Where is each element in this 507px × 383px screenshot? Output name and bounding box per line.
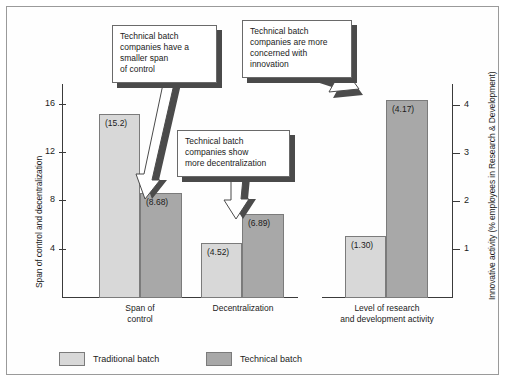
legend-label-traditional: Traditional batch bbox=[93, 354, 159, 364]
callout-span-of-control: Technical batch companies have a smaller… bbox=[112, 25, 217, 83]
legend-swatch-technical bbox=[206, 352, 232, 366]
chart-figure: 16 12 8 4 Span of control and decentrali… bbox=[0, 0, 507, 383]
callout-text-innovation: Technical batch companies are more conce… bbox=[242, 20, 352, 70]
callout-text-span: Technical batch companies have a smaller… bbox=[112, 25, 217, 75]
callout-innovation: Technical batch companies are more conce… bbox=[242, 20, 352, 78]
callout-decentralization: Technical batch companies show more dece… bbox=[177, 130, 290, 177]
legend-label-technical: Technical batch bbox=[240, 354, 302, 364]
callout-text-decentralization: Technical batch companies show more dece… bbox=[177, 130, 290, 169]
legend-swatch-traditional bbox=[59, 352, 85, 366]
